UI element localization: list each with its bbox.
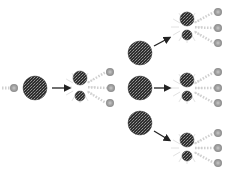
fission-fragment-large (180, 12, 194, 26)
arrow-icon (154, 131, 169, 140)
neutron (214, 144, 222, 152)
burst-ray (66, 91, 73, 95)
diagram-elements (10, 8, 222, 167)
neutron (214, 129, 222, 137)
burst-ray (173, 152, 180, 156)
neutron-trail (88, 92, 106, 103)
uranium-nucleus (128, 76, 152, 100)
neutron-trail (195, 72, 214, 83)
neutron (214, 68, 222, 76)
neutron (106, 99, 114, 107)
neutron (214, 84, 222, 92)
fission-fragment-small (182, 30, 192, 40)
uranium-nucleus (128, 111, 152, 135)
neutron-trail (195, 12, 214, 23)
neutron-trail (195, 153, 214, 164)
burst-ray (66, 79, 73, 83)
fission-fragment-large (180, 73, 194, 87)
uranium-nucleus (128, 41, 152, 65)
burst-ray (173, 140, 180, 144)
fission-fragment-small (182, 151, 192, 161)
neutron (214, 8, 222, 16)
neutron (214, 99, 222, 107)
neutron (214, 39, 222, 47)
burst-ray (173, 19, 180, 23)
burst-ray (173, 92, 180, 96)
burst-ray (173, 80, 180, 84)
fission-fragment-large (180, 133, 194, 147)
neutron (214, 159, 222, 167)
arrow-icon (154, 38, 169, 46)
fission-fragment-small (75, 91, 85, 101)
burst-ray (173, 31, 180, 35)
uranium-nucleus (23, 76, 47, 100)
fission-diagram (0, 0, 235, 175)
neutron-trail (88, 72, 106, 83)
neutron (214, 24, 222, 32)
neutron-trail (195, 93, 214, 104)
neutron-trail (195, 32, 214, 43)
fission-fragment-small (182, 91, 192, 101)
incoming-neutron (10, 84, 18, 92)
neutron-trail (195, 133, 214, 144)
neutron (106, 68, 114, 76)
fission-fragment-large (73, 71, 87, 85)
neutron (107, 84, 115, 92)
